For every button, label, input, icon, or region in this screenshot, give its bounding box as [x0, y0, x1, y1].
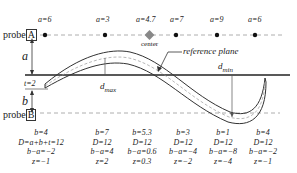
probe-b: probeB	[3, 109, 36, 121]
probe-a-letter: A	[26, 29, 37, 41]
point-2	[103, 33, 107, 37]
column-6: b=4D=12b−a=−2z=−1	[233, 128, 293, 166]
reference-plane-label: reference plane	[183, 47, 239, 56]
a-label-1: a=6	[38, 16, 51, 24]
d-max-label: dmax	[100, 82, 116, 94]
probe-a: probeA	[3, 29, 37, 41]
b-dimension-label: b	[22, 95, 28, 107]
a-dimension-label: a	[22, 50, 28, 62]
point-5	[215, 33, 219, 37]
a-label-3: a=4.7	[136, 16, 155, 24]
reference-plane-leader	[160, 52, 182, 68]
point-1	[43, 33, 47, 37]
probe-a-word: probe	[3, 29, 26, 40]
a-label-6: a=6	[248, 16, 261, 24]
point-6	[253, 33, 257, 37]
center-label: center	[141, 41, 158, 48]
a-label-4: a=7	[170, 16, 183, 24]
a-label-2: a=3	[96, 16, 109, 24]
center-marker-icon	[145, 30, 155, 40]
point-4	[174, 33, 178, 37]
probe-b-word: probe	[3, 109, 26, 120]
probe-b-letter: B	[26, 109, 37, 121]
d-min-label: dmin	[218, 62, 233, 74]
column-1: b=4D=a+b+t=12b−a=−2z=−1	[11, 128, 71, 166]
t-label: t=2	[24, 80, 36, 88]
a-label-5: a=9	[210, 16, 223, 24]
